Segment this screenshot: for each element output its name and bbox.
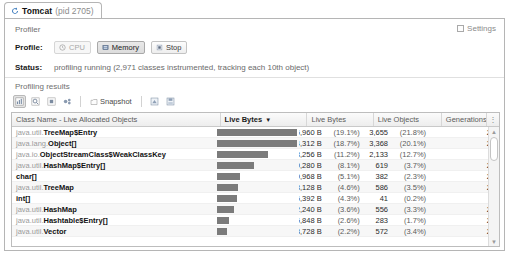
cell-live-objects-percent: (2.3%) <box>392 172 426 181</box>
cell-live-objects-value: 3,655 <box>369 128 388 137</box>
memory-profile-label: Memory <box>112 43 139 52</box>
settings-checkbox[interactable] <box>457 25 464 32</box>
stop-profile-button[interactable]: Stop <box>151 41 187 54</box>
cpu-profile-button[interactable]: CPU <box>54 41 91 54</box>
cell-live-objects: 556(3.3%) <box>364 204 430 215</box>
cell-live-bytes-bar <box>215 215 299 226</box>
stop-square-icon <box>156 44 163 51</box>
class-simple-name: HashMap$Entry[] <box>44 161 106 170</box>
class-package: java.util. <box>16 205 44 214</box>
live-bytes-bar <box>217 151 268 158</box>
live-bytes-bar <box>217 228 227 235</box>
table-row[interactable]: java.util.TreeMap28,128 B(4.6%)586(3.5%)… <box>12 182 499 193</box>
column-header-live-objects[interactable]: Live Objects <box>374 113 442 126</box>
profile-controls-row: Profile: CPU Mem <box>15 41 187 54</box>
cell-live-objects-value: 41 <box>380 194 388 203</box>
cell-live-bytes-bar <box>215 127 299 138</box>
cell-live-bytes-value: 30,968 B <box>299 172 322 181</box>
cell-live-bytes-value: 28,128 B <box>299 183 322 192</box>
cell-live-objects-value: 586 <box>376 183 389 192</box>
cell-live-bytes-bar <box>215 182 299 193</box>
column-header-generations[interactable]: Generations <box>442 113 488 126</box>
table-row[interactable]: java.util.TreeMap$Entry116,960 B(19.1%)3… <box>12 127 499 138</box>
live-bytes-bar <box>217 140 297 147</box>
cell-live-bytes-bar <box>215 171 299 182</box>
profile-label: Profile: <box>15 43 48 52</box>
cell-live-bytes-value: 13,728 B <box>299 227 322 236</box>
cell-live-bytes-percent: (2.2%) <box>326 227 360 236</box>
profiler-panel: Profiler Settings Profile: CPU <box>4 18 505 251</box>
stop-profile-label: Stop <box>166 43 181 52</box>
status-row: Status: profiling running (2,971 classes… <box>15 63 309 72</box>
scroll-down-arrow-icon[interactable]: ▼ <box>489 237 499 246</box>
live-bytes-bar <box>217 184 238 191</box>
cell-live-bytes: 13,728 B(2.2%) <box>299 226 364 237</box>
column-header-live-bytes-bar[interactable]: Live Bytes ▼ <box>221 113 308 126</box>
tab-tomcat[interactable]: Tomcat (pid 2705) <box>4 2 102 19</box>
tab-title: Tomcat <box>22 6 52 16</box>
cell-class-name: java.util.TreeMap <box>12 182 215 193</box>
cell-live-bytes-percent: (11.2%) <box>326 150 360 159</box>
table-row[interactable]: java.util.Hashtable$Entry[]15,848 B(2.6%… <box>12 215 499 226</box>
cell-live-bytes: 15,848 B(2.6%) <box>299 215 364 226</box>
class-simple-name: int[] <box>16 194 30 203</box>
settings-label: Settings <box>467 24 496 33</box>
status-text: profiling running (2,971 classes instrum… <box>54 63 309 72</box>
gc-run-icon[interactable] <box>61 95 74 108</box>
memory-profile-button[interactable]: Memory <box>97 41 145 54</box>
live-bytes-bar <box>217 173 240 180</box>
stop-collecting-icon[interactable] <box>45 95 58 108</box>
live-bytes-bar <box>217 162 254 169</box>
cell-live-bytes: 26,392 B(4.3%) <box>299 193 364 204</box>
cell-live-bytes-percent: (18.7%) <box>326 139 360 148</box>
cell-live-objects: 3,655(21.8%) <box>364 127 430 138</box>
class-simple-name: TreeMap$Entry <box>44 128 98 137</box>
cell-live-objects-value: 2,133 <box>369 150 388 159</box>
cell-live-objects-value: 382 <box>376 172 389 181</box>
class-package: java.io. <box>16 150 40 159</box>
toolbar-separator <box>80 96 81 107</box>
cell-live-bytes-percent: (8.1%) <box>326 161 360 170</box>
profiler-window: Tomcat (pid 2705) Profiler Settings Prof… <box>0 0 509 254</box>
cell-live-objects-value: 572 <box>376 227 389 236</box>
cell-live-bytes: 22,240 B(3.6%) <box>299 204 364 215</box>
results-section-label: Profiling results <box>15 82 70 91</box>
column-header-class-name[interactable]: Class Name - Live Allocated Objects <box>12 113 221 126</box>
class-simple-name: HashMap <box>44 205 77 214</box>
cell-live-bytes: 114,312 B(18.7%) <box>299 138 364 149</box>
cell-live-bytes-percent: (4.6%) <box>326 183 360 192</box>
save-data-icon[interactable] <box>164 95 177 108</box>
cell-live-bytes-value: 114,312 B <box>299 139 322 148</box>
table-vertical-scrollbar[interactable]: ▲ ▼ <box>488 127 499 246</box>
cell-live-objects: 2,133(12.7%) <box>364 149 430 160</box>
cell-live-bytes-value: 49,280 B <box>299 161 322 170</box>
table-row[interactable]: java.util.HashMap$Entry[]49,280 B(8.1%)6… <box>12 160 499 171</box>
results-table: Class Name - Live Allocated Objects Live… <box>11 112 500 247</box>
cell-live-bytes-bar <box>215 149 299 160</box>
cell-class-name: java.util.Vector <box>12 226 215 237</box>
table-row[interactable]: int[]26,392 B(4.3%)41(0.2%)3 <box>12 193 499 204</box>
table-row[interactable]: java.lang.Object[]114,312 B(18.7%)3,368(… <box>12 138 499 149</box>
cell-live-objects-percent: (12.7%) <box>392 150 426 159</box>
reset-results-icon[interactable] <box>29 95 42 108</box>
column-header-live-bytes[interactable]: Live Bytes <box>307 113 373 126</box>
cell-live-objects-percent: (3.3%) <box>392 205 426 214</box>
cell-live-bytes: 49,280 B(8.1%) <box>299 160 364 171</box>
cell-live-bytes-percent: (2.6%) <box>326 216 360 225</box>
scroll-up-arrow-icon[interactable]: ▲ <box>489 127 499 136</box>
settings-checkbox-group[interactable]: Settings <box>457 24 496 33</box>
live-results-icon[interactable] <box>13 95 26 108</box>
scrollbar-thumb[interactable] <box>490 137 498 161</box>
snapshot-button[interactable]: Snapshot <box>87 95 135 108</box>
cell-live-objects-value: 3,368 <box>369 139 388 148</box>
table-row[interactable]: java.util.Vector13,728 B(2.2%)572(3.4%)2… <box>12 226 499 237</box>
tab-pid: (pid 2705) <box>55 6 93 16</box>
table-row[interactable]: char[]30,968 B(5.1%)382(2.3%)24 <box>12 171 499 182</box>
column-chooser-icon[interactable]: ⋮ <box>487 113 499 126</box>
cell-live-objects: 572(3.4%) <box>364 226 430 237</box>
table-row[interactable]: java.util.HashMap22,240 B(3.6%)556(3.3%)… <box>12 204 499 215</box>
cell-class-name: java.io.ObjectStreamClass$WeakClassKey <box>12 149 215 160</box>
cell-live-bytes: 68,256 B(11.2%) <box>299 149 364 160</box>
export-data-icon[interactable] <box>148 95 161 108</box>
table-row[interactable]: java.io.ObjectStreamClass$WeakClassKey68… <box>12 149 499 160</box>
